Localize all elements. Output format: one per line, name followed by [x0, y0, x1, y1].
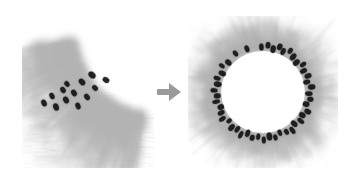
figure-canvas — [0, 0, 351, 183]
micrograph-panel-left — [22, 20, 154, 168]
micrograph-panel-right — [188, 16, 338, 168]
micrograph-left-render — [22, 20, 154, 168]
arrow-right-icon — [155, 81, 183, 103]
micrograph-right-render — [188, 16, 338, 168]
transition-arrow — [154, 80, 184, 104]
